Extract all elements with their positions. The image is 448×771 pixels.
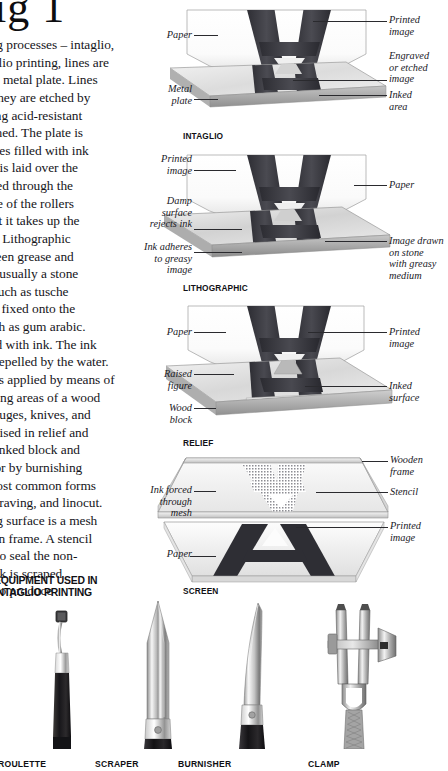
litho-leader-paper (354, 185, 387, 186)
litho-leader-printed-image (194, 170, 236, 171)
relief-label-printed-image: Printed image (389, 326, 448, 349)
page-title: ig 1 (0, 0, 65, 30)
intaglio-label-engraved-image: Engraved or etched image (389, 50, 448, 85)
body-text-line: , such as tusche (0, 283, 162, 301)
body-text-line: uch as gum arabic. (0, 318, 162, 336)
relief-illustration (150, 298, 431, 448)
intaglio-leader-inked-area (319, 95, 387, 96)
diagram-lithographic: Printed image Damp surface rejects ink I… (150, 145, 431, 293)
litho-leader-image-drawn-on-stone (325, 241, 387, 242)
intaglio-label-metal-plate: Metal plate (140, 83, 192, 106)
body-text-line: e inked block and (0, 441, 162, 459)
body-text-line: raised in relief and (0, 424, 162, 442)
litho-leader-damp-surface (194, 229, 242, 230)
screen-label-ink-forced: Ink forced through mesh (118, 484, 192, 519)
body-text-line: f a metal plate. Lines (0, 71, 162, 89)
intaglio-label-inked-area: Inked area (389, 89, 441, 112)
screen-label-paper: Paper (142, 548, 192, 560)
lithographic-caption: LITHOGRAPHIC (183, 283, 248, 293)
tool-label-roulette: ROULETTE (0, 759, 46, 769)
tool-clamp (322, 604, 400, 749)
tools-photo-strip: ROULETTE (0, 612, 431, 771)
relief-leader-inked-surface (305, 386, 387, 387)
intaglio-leader-paper (194, 35, 218, 36)
relief-leader-printed-image (308, 332, 387, 333)
relief-leader-raised-figure (194, 374, 234, 375)
screen-leader-printed-image (296, 527, 388, 528)
litho-label-paper: Paper (389, 179, 437, 191)
body-text-line: led with ink. The ink (0, 336, 162, 354)
litho-label-ink-adheres: Ink adheres to greasy image (118, 241, 192, 276)
intaglio-caption: INTAGLIO (183, 131, 223, 141)
tool-label-burnisher: BURNISHER (178, 759, 231, 769)
relief-label-raised-figure: Raised figure (136, 368, 192, 391)
screen-leader-stencil (316, 492, 388, 493)
screen-leader-wooden-frame (362, 461, 388, 462)
body-text-line: den frame. A stencil (0, 530, 162, 548)
body-text-line: s or by burnishing (0, 459, 162, 477)
diagram-screen: Ink forced through mesh Paper Wooden fra… (150, 450, 431, 598)
litho-label-damp-surface: Damp surface rejects ink (120, 195, 192, 230)
screen-illustration (150, 450, 431, 598)
diagram-intaglio: Paper Metal plate Printed image Engraved… (150, 4, 431, 140)
diagram-relief: Paper Raised figure Wood block Printed i… (150, 298, 431, 448)
body-text-line: tched. The plate is (0, 124, 162, 142)
screen-label-stencil: Stencil (390, 486, 440, 498)
body-text-line: sing acid-resistant (0, 107, 162, 125)
intaglio-leader-engraved-image (293, 80, 387, 81)
tool-label-scraper: SCRAPER (95, 759, 139, 769)
body-text-line: is fixed onto the (0, 300, 162, 318)
relief-leader-paper (194, 332, 226, 333)
tool-burnisher (232, 601, 274, 749)
intaglio-leader-printed-image (313, 21, 387, 22)
relief-leader-wood-block (194, 408, 216, 409)
body-text-line: ing processes – intaglio, (0, 36, 162, 54)
intaglio-leader-metal-plate (194, 99, 218, 100)
intaglio-label-printed-image: Printed image (389, 14, 448, 37)
intaglio-label-paper: Paper (144, 29, 192, 41)
body-text-line: They are etched by (0, 89, 162, 107)
body-text-line: ssed through the (0, 177, 162, 195)
relief-label-inked-surface: Inked surface (389, 380, 448, 403)
litho-label-printed-image: Printed image (132, 153, 192, 176)
tool-roulette (44, 609, 90, 749)
body-text-line: h to seal the non- (0, 547, 162, 565)
relief-label-paper: Paper (144, 326, 192, 338)
tool-label-clamp: CLAMP (308, 759, 340, 769)
screen-label-printed-image: Printed image (390, 520, 448, 543)
screen-leader-paper (190, 556, 216, 557)
screen-label-wooden-frame: Wooden frame (390, 454, 448, 477)
litho-label-image-drawn-on-stone: Image drawn on stone with greasy medium (389, 235, 448, 281)
litho-leader-ink-adheres (194, 252, 242, 253)
relief-caption: RELIEF (183, 438, 213, 448)
tool-scraper (138, 599, 178, 749)
screen-caption: SCREEN (183, 586, 218, 596)
body-text-line: aglio printing, lines are (0, 54, 162, 72)
screen-leader-ink-forced (194, 491, 216, 492)
relief-label-wood-block: Wood block (138, 402, 192, 425)
